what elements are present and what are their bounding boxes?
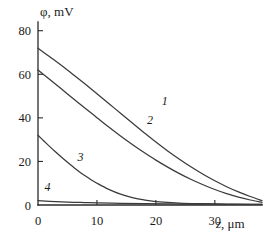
- y-tick-label: 40: [19, 111, 32, 125]
- curve-label-1: 1: [162, 94, 168, 108]
- x-tick-label: 0: [35, 214, 41, 228]
- y-tick-label: 20: [19, 155, 32, 169]
- x-axis-title-units: , μm: [221, 216, 245, 231]
- curve-label-4: 4: [44, 180, 50, 194]
- x-axis-tick-labels: 0102030: [35, 214, 221, 228]
- chart-figure: 020406080 0102030 1234 φ, mV z, μm: [0, 0, 272, 237]
- curve-label-3: 3: [76, 150, 83, 164]
- curve-labels: 1234: [44, 94, 167, 195]
- y-axis-title-units: , mV: [48, 4, 75, 19]
- y-tick-label: 60: [19, 68, 32, 82]
- x-axis-title: z, μm: [215, 216, 245, 231]
- data-curve-2: [38, 70, 262, 202]
- x-tick-label: 10: [91, 214, 104, 228]
- y-axis-title-symbol: φ: [40, 4, 48, 19]
- x-tick-label: 20: [150, 214, 163, 228]
- y-tick-label: 80: [19, 24, 32, 38]
- curve-label-2: 2: [147, 113, 153, 127]
- chart-plot-area: 020406080 0102030 1234 φ, mV z, μm: [0, 0, 272, 237]
- y-axis-title: φ, mV: [40, 4, 74, 19]
- y-tick-label: 0: [25, 199, 31, 213]
- y-axis-tick-labels: 020406080: [19, 24, 32, 212]
